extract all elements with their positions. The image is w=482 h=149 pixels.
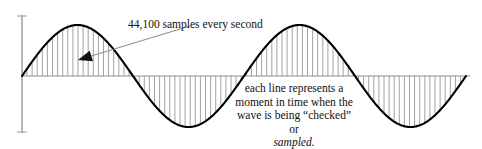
arrow-head (78, 51, 93, 62)
caption-line-4-italic: sampled. (232, 136, 356, 149)
sampling-caption: each line represents a moment in time wh… (232, 82, 356, 149)
sample-rate-label: 44,100 samples every second (128, 18, 263, 32)
caption-line-2: moment in time when the (232, 96, 356, 110)
caption-line-3: wave is being “checked” or (232, 109, 356, 136)
figure-canvas: 44,100 samples every second each line re… (0, 0, 482, 149)
caption-line-1: each line represents a (232, 82, 356, 96)
